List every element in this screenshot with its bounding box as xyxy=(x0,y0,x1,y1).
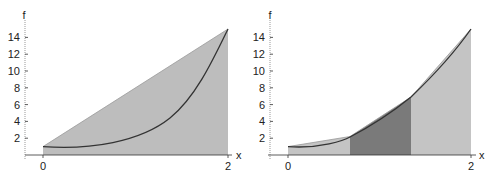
right-chart: 14 12 10 8 6 4 2 0 2 f x xyxy=(253,9,485,172)
left-chart: 14 12 10 8 6 4 2 0 2 f x xyxy=(8,9,242,172)
right-xtick-0: 0 xyxy=(285,160,291,172)
figure: 14 12 10 8 6 4 2 0 2 f x xyxy=(0,0,496,178)
right-ytick-6: 6 xyxy=(259,99,265,111)
right-trapezoid-2 xyxy=(350,97,411,155)
right-ytick-12: 12 xyxy=(253,48,265,60)
left-ytick-10: 10 xyxy=(8,65,20,77)
right-ytick-4: 4 xyxy=(259,115,265,127)
left-xlabel: x xyxy=(236,149,242,161)
right-xtick-2: 2 xyxy=(468,160,474,172)
right-ytick-14: 14 xyxy=(253,31,265,43)
right-ylabel: f xyxy=(268,9,272,21)
left-ylabel: f xyxy=(22,9,26,21)
right-xlabel: x xyxy=(479,149,485,161)
left-ytick-14: 14 xyxy=(8,31,20,43)
right-trapezoid-3 xyxy=(411,29,471,155)
right-ytick-10: 10 xyxy=(253,65,265,77)
left-xtick-0: 0 xyxy=(40,160,46,172)
left-ytick-8: 8 xyxy=(14,82,20,94)
right-ytick-8: 8 xyxy=(259,82,265,94)
left-ytick-4: 4 xyxy=(14,115,20,127)
left-ytick-12: 12 xyxy=(8,48,20,60)
left-ytick-6: 6 xyxy=(14,99,20,111)
left-ytick-2: 2 xyxy=(14,132,20,144)
left-xtick-2: 2 xyxy=(225,160,231,172)
right-ytick-2: 2 xyxy=(259,132,265,144)
